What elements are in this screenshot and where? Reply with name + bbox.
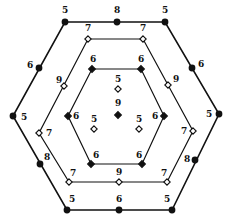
center-node-3-open-diamond-icon xyxy=(136,126,142,132)
inner-hexagon-node-4-filled-diamond-icon xyxy=(88,161,95,168)
inner-hexagon-node-0-label: 6 xyxy=(90,54,96,64)
lattice-nodes xyxy=(10,19,223,214)
middle-hexagon-node-1-open-diamond-icon xyxy=(140,36,146,42)
middle-hexagon-node-7-open-diamond-icon xyxy=(36,130,42,136)
node-labels: 5856585658567797797796666665955 xyxy=(21,5,212,204)
center-node-0-open-diamond-icon xyxy=(115,86,121,92)
outer-hexagon-node-2-label: 5 xyxy=(162,5,168,15)
hexagonal-lattice-diagram: 5856585658567797797796666665955 xyxy=(0,0,233,221)
inner-hexagon-node-3-label: 6 xyxy=(136,150,142,160)
inner-hexagon-node-0-filled-diamond-icon xyxy=(89,66,96,73)
outer-hexagon-node-4-filled-circle-icon xyxy=(216,111,223,118)
outer-hexagon-node-4-label: 5 xyxy=(206,109,212,119)
middle-hexagon-node-3-open-diamond-icon xyxy=(190,128,196,134)
center-node-3-label: 5 xyxy=(136,114,142,124)
middle-hexagon-node-2-label: 9 xyxy=(173,74,179,84)
middle-hexagon-node-5-open-diamond-icon xyxy=(116,179,122,185)
outer-hexagon-node-1-label: 8 xyxy=(114,5,120,15)
outer-hexagon-node-6-label: 5 xyxy=(164,194,170,204)
outer-hexagon-node-5-label: 8 xyxy=(184,154,190,164)
inner-hexagon-node-4-label: 6 xyxy=(93,150,99,160)
inner-hexagon-node-1-filled-diamond-icon xyxy=(138,66,145,73)
inner-hexagon-node-5-filled-diamond-icon xyxy=(65,113,72,120)
outer-hexagon-node-7-label: 6 xyxy=(116,194,122,204)
middle-hexagon-node-7-label: 7 xyxy=(46,128,52,138)
inner-hexagon-node-3-filled-diamond-icon xyxy=(139,161,146,168)
outer-hexagon-node-10-label: 5 xyxy=(21,112,27,122)
middle-hexagon-node-1-label: 7 xyxy=(140,23,146,33)
outer-hexagon-node-6-filled-circle-icon xyxy=(169,207,176,214)
middle-hexagon-node-0-label: 7 xyxy=(85,23,91,33)
outer-hexagon-node-8-filled-circle-icon xyxy=(64,207,71,214)
middle-hexagon-node-4-label: 7 xyxy=(161,168,167,178)
outer-hexagon-node-0-filled-circle-icon xyxy=(62,19,69,26)
middle-hexagon-node-3-label: 7 xyxy=(181,126,187,136)
outer-hexagon-node-8-label: 5 xyxy=(69,194,75,204)
center-node-1-filled-diamond-icon xyxy=(115,112,122,119)
outer-hexagon-node-0-label: 5 xyxy=(62,5,68,15)
middle-hexagon-node-5-label: 9 xyxy=(116,167,122,177)
outer-hexagon-node-1-filled-circle-icon xyxy=(114,19,121,26)
center-node-2-label: 5 xyxy=(91,114,97,124)
middle-hexagon-node-6-label: 7 xyxy=(70,168,76,178)
outer-hexagon-node-2-filled-circle-icon xyxy=(162,19,169,26)
inner-hexagon-node-2-filled-diamond-icon xyxy=(161,113,168,120)
middle-hexagon xyxy=(39,39,193,182)
outer-hexagon-node-5-filled-circle-icon xyxy=(192,157,199,164)
inner-hexagon-node-5-label: 6 xyxy=(73,111,79,121)
middle-hexagon-node-2-open-diamond-icon xyxy=(165,82,171,88)
middle-hexagon-node-8-label: 9 xyxy=(56,75,62,85)
outer-hexagon-node-9-filled-circle-icon xyxy=(37,161,44,168)
center-node-0-label: 5 xyxy=(115,74,121,84)
center-node-1-label: 9 xyxy=(115,98,121,108)
outer-hexagon-node-7-filled-circle-icon xyxy=(116,207,123,214)
inner-hexagon-node-1-label: 6 xyxy=(138,54,144,64)
middle-hexagon-node-6-open-diamond-icon xyxy=(66,179,72,185)
center-node-2-open-diamond-icon xyxy=(91,126,97,132)
outer-hexagon-node-11-filled-circle-icon xyxy=(36,65,43,72)
outer-hexagon-node-9-label: 8 xyxy=(44,152,50,162)
middle-hexagon-node-4-open-diamond-icon xyxy=(164,179,170,185)
middle-hexagon-node-0-open-diamond-icon xyxy=(85,36,91,42)
inner-hexagon-node-2-label: 6 xyxy=(152,111,158,121)
outer-hexagon-node-3-label: 6 xyxy=(198,59,204,69)
outer-hexagon-node-11-label: 6 xyxy=(27,60,33,70)
outer-hexagon-node-10-filled-circle-icon xyxy=(10,113,17,120)
outer-hexagon-node-3-filled-circle-icon xyxy=(189,65,196,72)
